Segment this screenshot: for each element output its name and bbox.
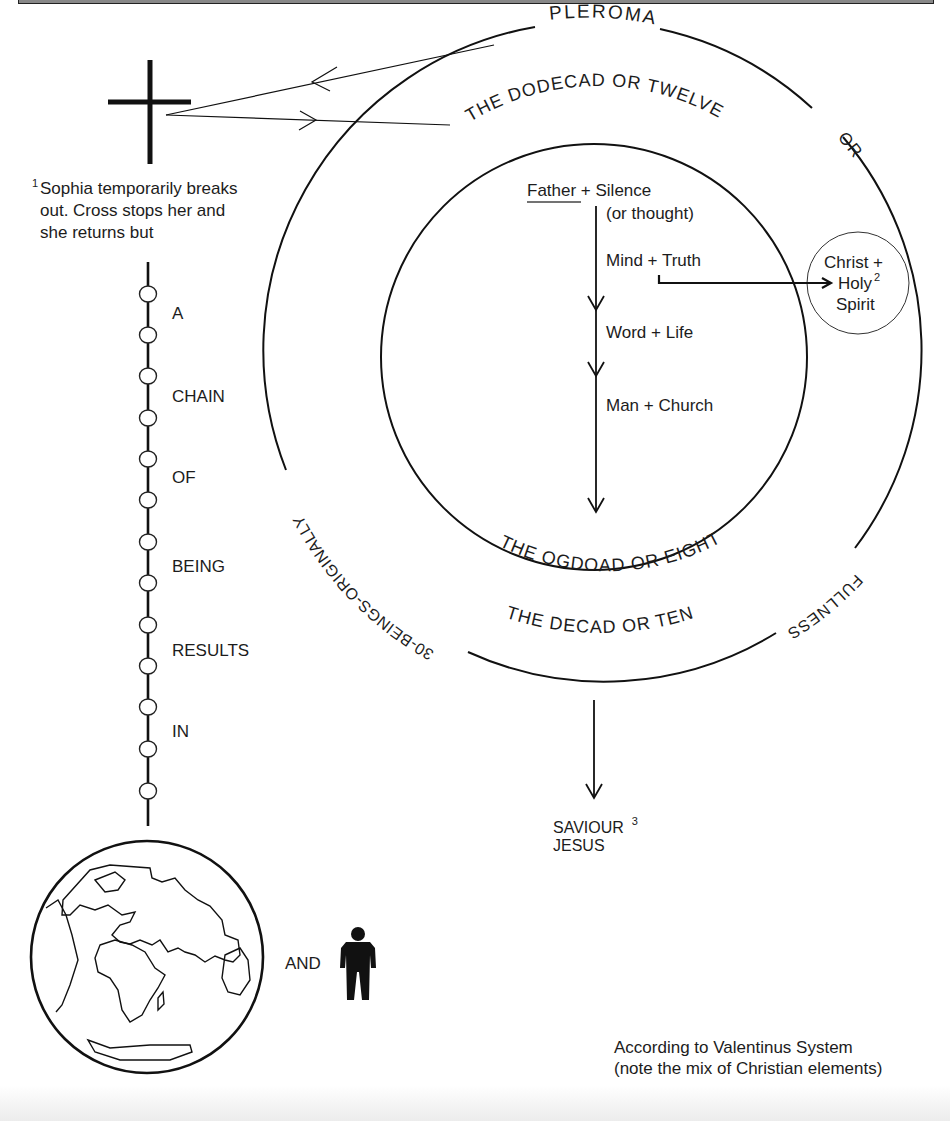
- jesus-label: JESUS: [553, 836, 605, 855]
- christ-label-line-1: Christ +: [824, 252, 883, 273]
- and-label: AND: [285, 953, 321, 974]
- outer-circle: [263, 27, 921, 682]
- chain-word: OF: [172, 467, 196, 488]
- label-dodecad: THE DODECAD OR TWELVE: [462, 70, 727, 125]
- chain-of-being: [140, 262, 157, 826]
- emanation-father-silence: Father + Silence: [527, 180, 651, 201]
- chain-word: RESULTS: [172, 640, 249, 661]
- sophia-breakout-lines: [166, 45, 494, 130]
- label-ogdoad: THE OGDOAD OR EIGHT: [497, 528, 724, 576]
- globe-icon: [31, 841, 263, 1073]
- sophia-note-line-3: she returns but: [40, 222, 153, 243]
- emanation-mind-truth: Mind + Truth: [606, 250, 701, 271]
- label-decad: THE DECAD OR TEN: [504, 602, 696, 637]
- chain-word: IN: [172, 721, 189, 742]
- christ-label-line-2: Holy2: [838, 273, 880, 296]
- label-30-beings: 30-BEINGS-ORIGINALLY: [289, 512, 436, 663]
- emanation-or-thought: (or thought): [606, 203, 694, 224]
- sophia-note-line-2: out. Cross stops her and: [40, 200, 225, 221]
- inner-circle: [381, 144, 807, 570]
- caption-line-2: (note the mix of Christian elements): [614, 1058, 882, 1079]
- chain-word: A: [172, 303, 183, 324]
- sophia-note-line-1: Sophia temporarily breaks: [40, 178, 237, 199]
- chain-word: BEING: [172, 556, 225, 577]
- emanation-word-life: Word + Life: [606, 322, 693, 343]
- christ-connector-arrow: [659, 275, 831, 288]
- label-fullness: FULLNESS: [784, 572, 866, 643]
- christ-label-line-3: Spirit: [836, 294, 875, 315]
- person-icon: [340, 927, 376, 1000]
- saviour-arrow: [586, 700, 602, 798]
- pleroma-diagram: PLEROMA THE DODECAD OR TWELVE OR THE OGD…: [0, 0, 950, 1121]
- page-bottom-fade: [0, 1085, 950, 1121]
- caption-line-1: According to Valentinus System: [614, 1037, 853, 1058]
- label-or: OR: [834, 128, 866, 162]
- chain-word: CHAIN: [172, 386, 225, 407]
- footnote-1-marker: 1: [32, 173, 38, 194]
- footnote-3-marker: 3: [632, 815, 638, 827]
- emanation-man-church: Man + Church: [606, 395, 713, 416]
- label-pleroma: PLEROMA: [548, 1, 659, 29]
- emanation-arrow: [588, 206, 604, 512]
- footnote-2-marker: 2: [874, 271, 880, 283]
